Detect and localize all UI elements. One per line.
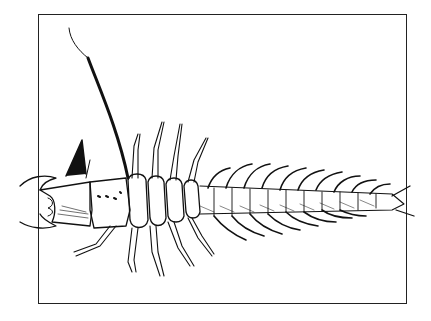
gills-top <box>208 164 390 194</box>
legs-top <box>132 122 208 182</box>
thorax <box>90 174 200 228</box>
head <box>20 140 92 228</box>
hatching <box>200 200 374 212</box>
gills-bottom <box>214 210 366 240</box>
abdomen <box>200 186 414 216</box>
larva-illustration <box>0 0 431 321</box>
